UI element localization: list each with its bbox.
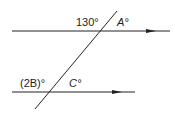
top-arrowhead-icon <box>146 29 156 33</box>
angle-label-130: 130° <box>76 17 99 28</box>
angle-label-c: C° <box>69 78 81 89</box>
angle-label-2b: (2B)° <box>20 78 45 89</box>
bottom-arrowhead-icon <box>112 90 122 94</box>
angle-label-a: A° <box>117 17 129 28</box>
